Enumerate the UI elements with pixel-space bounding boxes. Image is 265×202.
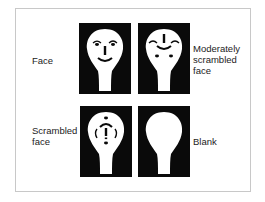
right-eye-icon [111,43,115,46]
nose-icon [163,34,165,43]
label-line: Scrambled [32,125,77,136]
nose-icon [105,128,107,136]
eye-icon [104,142,108,145]
label-moderately-scrambled: Moderately scrambled face [193,43,240,76]
left-eye-icon [155,55,159,58]
label-face: Face [32,55,53,66]
left-eye-icon [95,43,99,46]
label-blank-text: Blank [193,136,217,147]
panel-moderately-scrambled [138,23,190,94]
nose-icon [104,46,106,55]
blank-face-image [138,106,190,177]
eye-icon [104,117,108,120]
label-scrambled: Scrambled face [32,125,77,147]
panel-face [79,23,131,94]
panel-scrambled [80,106,132,177]
scrambled-face-image [80,106,132,177]
label-blank: Blank [193,136,217,147]
label-line: Moderately [193,43,240,54]
label-line: face [193,65,240,76]
face-image [79,23,131,94]
moderately-scrambled-face-image [138,23,190,94]
figure-frame [15,8,251,192]
label-face-text: Face [32,55,53,66]
panel-blank [138,106,190,177]
label-line: scrambled [193,54,240,65]
right-eye-icon [169,55,173,58]
label-line: face [32,136,77,147]
